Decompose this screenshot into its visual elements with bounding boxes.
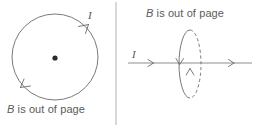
loop-ellipse-near-half-solid [179, 30, 190, 98]
loop-direction-arrowhead-near [176, 59, 184, 65]
current-label-left: I [88, 9, 92, 21]
current-direction-arrowhead-bottom [21, 79, 31, 88]
current-direction-arrowhead-top [79, 25, 89, 34]
caption-right-text: is out of page [153, 7, 224, 19]
b-field-out-of-page-dot-icon [52, 55, 57, 60]
current-label-right: I [132, 48, 136, 60]
right-panel-group [128, 30, 252, 98]
caption-right-b-out-of-page: B is out of page [146, 7, 224, 19]
caption-left-text: is out of page [14, 103, 85, 115]
loop-ellipse-far-half-dashed [190, 30, 201, 98]
caption-left-b-out-of-page: B is out of page [7, 103, 85, 115]
physics-diagram-figure: B is out of page B is out of page I I [0, 0, 255, 127]
loop-direction-arrowhead-far [186, 69, 194, 76]
left-panel-group [12, 14, 98, 100]
